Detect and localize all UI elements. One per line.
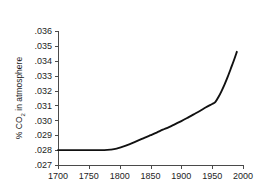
x-tick-label: 1900 bbox=[171, 171, 191, 181]
y-tick-label: .031 bbox=[34, 101, 52, 111]
y-axis-title: % CO2 in atmosphere bbox=[14, 57, 26, 140]
x-tick-label: 1700 bbox=[48, 171, 68, 181]
x-tick-label: 1950 bbox=[202, 171, 222, 181]
x-tick-group: 1700175018001850190019502000 bbox=[48, 165, 253, 181]
co2-concentration-chart: .027.028.029.030.031.032.033.034.035.036… bbox=[0, 0, 258, 190]
y-tick-label: .036 bbox=[34, 26, 52, 36]
y-axis-title-suffix: in atmosphere bbox=[14, 57, 24, 113]
y-axis-title-prefix: % CO bbox=[14, 116, 24, 139]
y-tick-label: .035 bbox=[34, 41, 52, 51]
x-tick-label: 2000 bbox=[233, 171, 253, 181]
y-tick-label: .028 bbox=[34, 145, 52, 155]
y-tick-label: .034 bbox=[34, 56, 52, 66]
y-tick-label: .030 bbox=[34, 116, 52, 126]
y-tick-label: .032 bbox=[34, 86, 52, 96]
y-tick-group: .027.028.029.030.031.032.033.034.035.036 bbox=[34, 26, 58, 170]
x-tick-label: 1750 bbox=[79, 171, 99, 181]
y-tick-label: .027 bbox=[34, 160, 52, 170]
x-tick-label: 1850 bbox=[140, 171, 160, 181]
y-tick-label: .029 bbox=[34, 130, 52, 140]
y-axis-title-text: % CO2 in atmosphere bbox=[14, 57, 26, 140]
y-tick-label: .033 bbox=[34, 71, 52, 81]
x-tick-label: 1800 bbox=[110, 171, 130, 181]
co2-line-series bbox=[58, 52, 237, 150]
chart-canvas: .027.028.029.030.031.032.033.034.035.036… bbox=[0, 0, 258, 190]
